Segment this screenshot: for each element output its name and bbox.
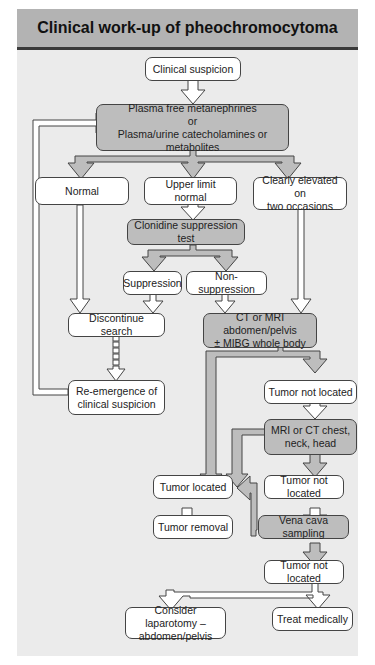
node-label: Tumor removal <box>158 521 228 534</box>
node-label: Re-emergence of <box>76 385 157 398</box>
node-label: Clinical suspicion <box>153 63 234 76</box>
node-label: two occasions <box>267 200 333 213</box>
arrow-elevated-to-ct <box>291 208 311 313</box>
arrow-suspicion-to-plasma <box>181 79 205 104</box>
node-label: Treat medically <box>277 613 348 626</box>
node-label: or <box>188 115 197 128</box>
node-consider-laparotomy: Consider laparotomy – abdomen/pelvis <box>125 607 226 639</box>
node-discontinue-search: Discontinue search <box>68 313 165 337</box>
node-label: Tumor not located <box>268 386 352 399</box>
arrow-dashed-to-reemergence <box>107 366 125 381</box>
node-label: Tumor not located <box>268 559 340 585</box>
node-label: Suppression <box>123 277 181 290</box>
node-label: Tumor not located <box>268 474 340 500</box>
node-clearly-elevated: Clearly elevated on two occasions <box>253 177 347 210</box>
node-tumor-not-located-3: Tumor not located <box>264 560 344 584</box>
node-label: MRI or CT chest, <box>271 424 350 437</box>
node-clonidine-test: Clonidine suppression test <box>127 219 245 245</box>
dashed-link-segment <box>113 348 119 353</box>
node-label: Consider laparotomy – <box>129 604 222 630</box>
node-treat-medically: Treat medically <box>272 607 353 631</box>
loop-arrow-reemergence-to-plasma <box>33 113 112 395</box>
node-vena-cava-sampling: Vena cava sampling <box>258 515 349 539</box>
node-label: Plasma/urine catecholamines or metabolit… <box>100 128 285 154</box>
node-label: clinical suspicion <box>77 398 155 411</box>
dashed-link-segment <box>113 354 119 359</box>
node-mri-ct-chest: MRI or CT chest, neck, head <box>264 419 357 455</box>
node-label: Discontinue search <box>72 312 161 338</box>
node-label: Clearly elevated on <box>257 174 343 200</box>
node-label: Normal <box>65 185 99 198</box>
node-label: neck, head <box>285 437 336 450</box>
arrow-venacava-to-tumorlocated <box>237 476 257 536</box>
node-non-suppression: Non-suppression <box>186 271 267 295</box>
node-label: Non-suppression <box>190 270 263 296</box>
branch-clonidine-to-results <box>142 245 238 271</box>
node-label: Vena cava sampling <box>262 514 345 540</box>
node-upper-limit-normal: Upper limit normal <box>144 177 237 205</box>
dashed-link-segment <box>113 360 119 365</box>
node-normal: Normal <box>35 177 129 205</box>
node-label: ± MIBG whole body <box>214 337 306 350</box>
node-label: abdomen/pelvis <box>139 630 213 643</box>
node-tumor-removal: Tumor removal <box>153 515 233 539</box>
node-re-emergence: Re-emergence of clinical suspicion <box>68 380 165 415</box>
arrow-nonsuppression-to-ct <box>215 293 235 313</box>
node-suppression: Suppression <box>123 271 182 295</box>
node-label: Plasma free metanephrines <box>128 102 256 115</box>
node-tumor-not-located-2: Tumor not located <box>264 475 344 499</box>
node-tumor-located: Tumor located <box>153 475 233 499</box>
node-label: CT or MRI abdomen/pelvis <box>207 311 313 337</box>
node-label: Upper limit normal <box>148 178 233 204</box>
node-plasma-tests: Plasma free metanephrines or Plasma/urin… <box>96 104 289 151</box>
node-ct-mri-abdomen: CT or MRI abdomen/pelvis ± MIBG whole bo… <box>203 313 317 348</box>
arrow-normal-to-discontinue <box>70 205 90 313</box>
dashed-link-segment <box>113 342 119 347</box>
arrow-suppression-to-discontinue <box>143 293 163 313</box>
node-clinical-suspicion: Clinical suspicion <box>145 57 241 81</box>
node-label: Clonidine suppression test <box>131 219 241 245</box>
node-tumor-not-located-1: Tumor not located <box>264 380 357 404</box>
node-label: Tumor located <box>160 481 227 494</box>
